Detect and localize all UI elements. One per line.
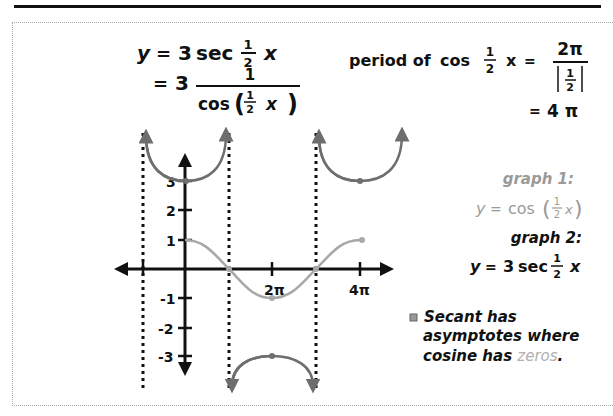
y-tick-label-1: 1	[166, 233, 176, 249]
var-x: x	[265, 94, 278, 114]
paren-right: )	[287, 90, 298, 118]
bullet-icon	[410, 314, 417, 321]
equals: =	[156, 43, 171, 64]
graph1-equation: y = cos ( 1 2 x )	[475, 196, 583, 221]
secant-branch-lower	[232, 356, 313, 386]
axes: 3 2 1 -1 -2 -3 2π 4π	[114, 153, 394, 376]
equals: =	[524, 53, 536, 69]
note-line1: Secant has	[424, 308, 517, 326]
note-line3: cosine has zeros.	[423, 347, 563, 365]
main-equation-line1: y = 3 sec 1 2 x	[137, 37, 278, 70]
den-den: 2	[566, 81, 574, 94]
var-y: y	[475, 199, 486, 218]
coefficient: 3	[178, 41, 192, 65]
func-sec: sec	[518, 257, 548, 276]
paren-left: (	[234, 90, 245, 118]
frac-num: 1	[243, 37, 252, 52]
func-cos: cos	[440, 51, 470, 70]
period-equation: period of cos 1 2 x = 2π 1 2 = 4 π	[349, 39, 588, 121]
func-cos: cos	[198, 94, 230, 114]
x-axis-arrow-right-icon	[380, 262, 394, 276]
frac-num: 1	[486, 45, 494, 59]
coefficient: 3	[503, 257, 514, 276]
var-x: x	[564, 202, 573, 217]
func-sec: sec	[196, 41, 233, 65]
numerator: 1	[245, 66, 255, 84]
y-axis-arrow-up-icon	[178, 153, 192, 167]
frac-den: 2	[554, 209, 560, 220]
x-tick-label-4pi: 4π	[349, 282, 370, 298]
den-frac-den: 2	[246, 103, 254, 116]
var-x: x	[506, 51, 517, 70]
numerator-2pi: 2π	[557, 39, 582, 59]
y-tick-label-2: 2	[166, 203, 176, 219]
period-result: 4 π	[547, 101, 578, 121]
graph2-label: graph 2:	[511, 229, 582, 247]
equals: =	[485, 259, 497, 275]
graph1-label: graph 1:	[503, 170, 574, 188]
equals: =	[529, 103, 541, 119]
graph2-equation: y = 3 sec 1 2 x	[470, 252, 581, 281]
note-line2: asymptotes where	[423, 327, 579, 345]
paren-right: )	[574, 196, 583, 221]
y-tick-label-neg1: -1	[160, 291, 176, 307]
secant-branch-upper-right	[319, 134, 402, 181]
var-y: y	[137, 41, 151, 65]
note: Secant has asymptotes where cosine has z…	[410, 308, 579, 365]
frac-num: 1	[554, 196, 560, 207]
main-equation-line2: = 3 1 cos ( 1 2 x )	[153, 66, 300, 118]
x-axis-arrow-left-icon	[114, 262, 128, 276]
equals: =	[490, 201, 502, 217]
y-tick-label-neg3: -3	[158, 349, 174, 365]
y-tick-label-neg2: -2	[158, 321, 174, 337]
paren-left: (	[542, 196, 551, 221]
den-frac-num: 1	[246, 89, 254, 102]
frac-den: 2	[553, 268, 561, 281]
frac-num: 1	[553, 252, 561, 265]
period-label: period of	[349, 51, 432, 70]
func-cos: cos	[508, 199, 535, 218]
var-x: x	[569, 257, 581, 276]
var-x: x	[263, 41, 278, 65]
var-y: y	[470, 257, 481, 276]
coefficient: 3	[175, 71, 189, 95]
y-axis-arrow-down-icon	[178, 362, 192, 376]
den-num: 1	[566, 67, 574, 80]
frac-den: 2	[486, 62, 494, 76]
equals: =	[153, 73, 168, 94]
legend: graph 1: y = cos ( 1 2 x ) graph 2: y = …	[470, 170, 583, 281]
